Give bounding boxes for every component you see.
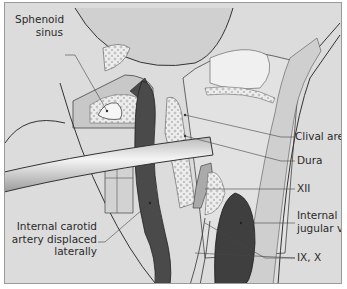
label-text: Sphenoid <box>15 13 63 26</box>
label-ix-x: IX, X <box>297 251 321 264</box>
label-sphenoid-sinus: Sphenoid sinus <box>15 13 63 38</box>
label-text: sinus <box>15 26 63 39</box>
label-dura: Dura <box>297 154 323 167</box>
brainstem-upper <box>210 50 270 89</box>
label-text: Internal <box>297 209 342 222</box>
label-text: Internal carotid <box>9 220 97 233</box>
label-xii: XII <box>297 182 310 195</box>
label-text: jugular vein <box>297 222 342 235</box>
skull-base-arc <box>75 8 233 66</box>
internal-carotid-artery <box>135 81 171 284</box>
diagram-frame: Sphenoid sinus Clival area Dura XII Inte… <box>4 2 342 284</box>
bone-stipple-upper <box>103 45 130 72</box>
label-text: artery displaced <box>9 233 97 246</box>
label-internal-carotid-artery: Internal carotid artery displaced latera… <box>9 220 97 258</box>
label-clival-area: Clival area <box>295 130 342 143</box>
label-internal-jugular-vein: Internal jugular vein <box>297 209 342 234</box>
label-text: laterally <box>9 245 97 258</box>
